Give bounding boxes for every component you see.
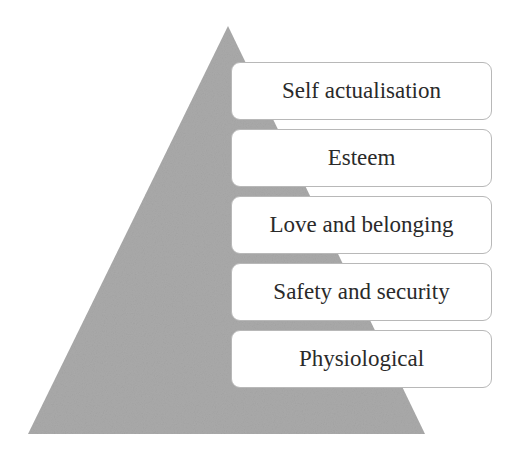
level-label: Physiological <box>299 346 424 372</box>
level-label: Safety and security <box>273 279 449 305</box>
level-esteem: Esteem <box>231 129 492 187</box>
level-love-and-belonging: Love and belonging <box>231 196 492 254</box>
level-physiological: Physiological <box>231 330 492 388</box>
level-label: Love and belonging <box>270 212 454 238</box>
level-label: Self actualisation <box>282 78 441 104</box>
level-label: Esteem <box>328 145 396 171</box>
level-self-actualisation: Self actualisation <box>231 62 492 120</box>
level-safety-and-security: Safety and security <box>231 263 492 321</box>
